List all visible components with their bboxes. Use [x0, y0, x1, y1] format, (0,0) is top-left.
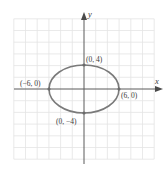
ellipse-diagram: x y (0, 4) (0, −4) (−6, 0) (6, 0) [0, 0, 166, 173]
y-axis-arrow-icon [81, 12, 87, 20]
point-bottom [82, 111, 85, 114]
label-top: (0, 4) [86, 55, 103, 64]
x-axis-arrow-icon [155, 86, 163, 92]
x-axis-label: x [154, 76, 159, 86]
y-axis-label: y [87, 9, 92, 19]
label-bottom: (0, −4) [56, 117, 77, 126]
label-left: (−6, 0) [20, 79, 41, 88]
point-left [47, 87, 50, 90]
label-right: (6, 0) [121, 91, 138, 100]
